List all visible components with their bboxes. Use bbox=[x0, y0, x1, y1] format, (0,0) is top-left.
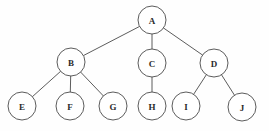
tree-diagram: ABCDEFGHIJ bbox=[0, 0, 269, 131]
tree-node-label-f: F bbox=[67, 102, 73, 112]
tree-edge-a-b bbox=[83, 26, 139, 55]
tree-node-label-d: D bbox=[211, 59, 218, 69]
tree-diagram-canvas: ABCDEFGHIJ bbox=[0, 0, 269, 131]
tree-node-e: E bbox=[8, 92, 36, 120]
tree-node-label-c: C bbox=[149, 59, 156, 69]
node-layer: ABCDEFGHIJ bbox=[8, 6, 256, 121]
tree-node-label-a: A bbox=[149, 16, 156, 26]
tree-edge-a-d bbox=[164, 28, 203, 55]
tree-edge-d-i bbox=[194, 75, 207, 95]
tree-node-h: H bbox=[138, 92, 166, 120]
tree-node-label-g: G bbox=[109, 102, 116, 112]
tree-node-g: G bbox=[99, 92, 127, 120]
tree-node-label-i: I bbox=[184, 102, 188, 112]
tree-edge-b-g bbox=[81, 72, 104, 96]
tree-node-label-b: B bbox=[68, 58, 74, 68]
tree-edge-b-e bbox=[32, 71, 60, 96]
tree-node-b: B bbox=[57, 48, 85, 76]
tree-node-i: I bbox=[172, 92, 200, 120]
tree-node-label-e: E bbox=[19, 102, 25, 112]
tree-node-label-j: J bbox=[240, 103, 245, 113]
tree-node-f: F bbox=[56, 92, 84, 120]
tree-node-a: A bbox=[138, 6, 166, 34]
tree-edge-d-j bbox=[222, 75, 235, 95]
tree-node-d: D bbox=[200, 49, 228, 77]
tree-node-c: C bbox=[138, 49, 166, 77]
tree-node-label-h: H bbox=[148, 102, 155, 112]
tree-node-j: J bbox=[228, 93, 256, 121]
